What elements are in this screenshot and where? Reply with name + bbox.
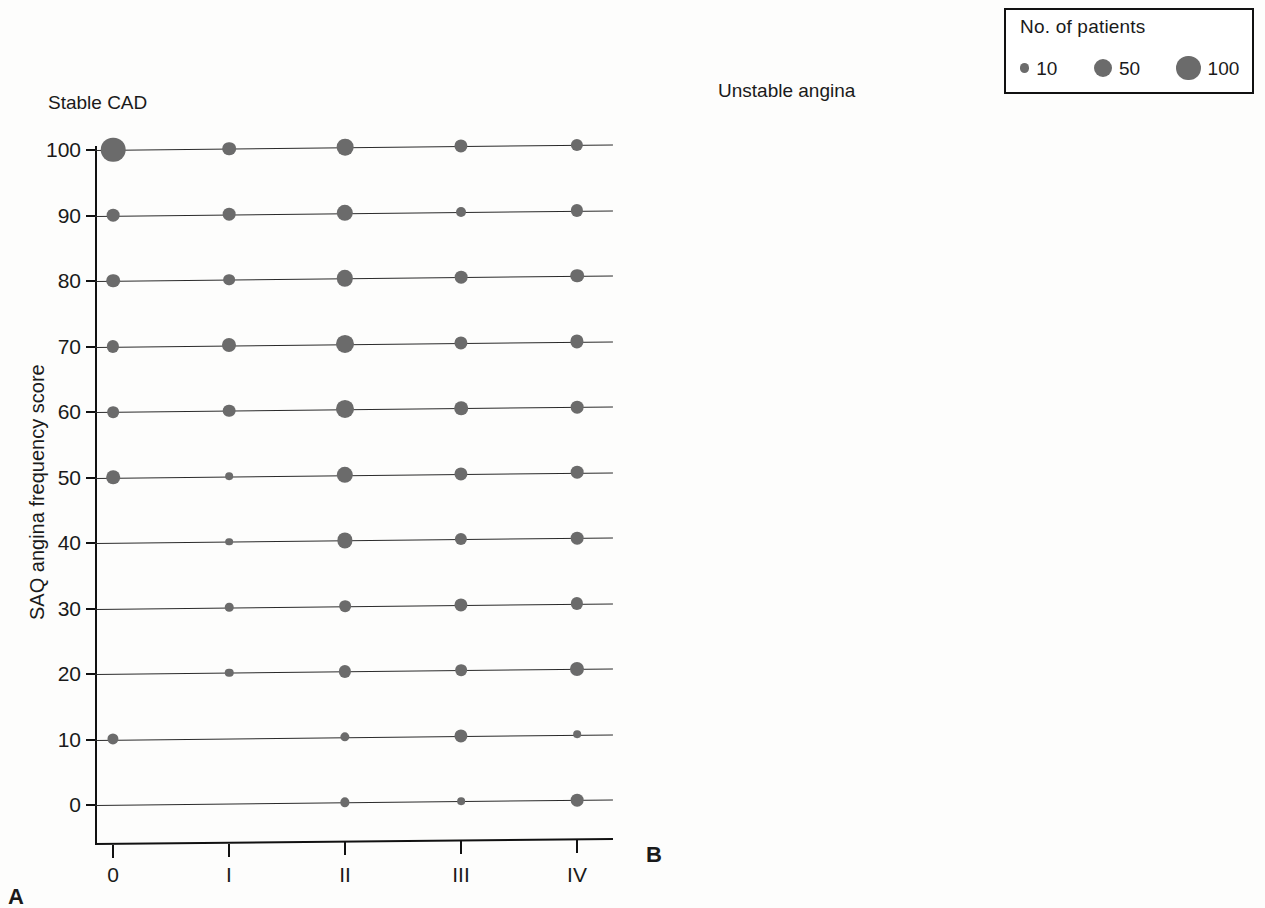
- bubble-a-ccsIV-score0: [571, 794, 584, 807]
- bubble-a-ccsIV-score80: [570, 269, 584, 283]
- bubble-a-ccsI-score100: [222, 142, 236, 156]
- a-row-line-100: [95, 145, 613, 152]
- a-y-tick-label-50: 50: [58, 466, 81, 490]
- bubble-a-ccsII-score0: [340, 798, 349, 807]
- a-x-tick-label-I: I: [226, 863, 232, 887]
- a-x-tick-I: [228, 844, 230, 857]
- a-y-tick-label-90: 90: [58, 204, 81, 228]
- a-row-line-70: [95, 341, 613, 348]
- bubble-a-ccsII-score40: [337, 533, 352, 548]
- bubble-a-ccs0-score70: [107, 340, 119, 352]
- bubble-a-ccsII-score70: [336, 335, 354, 353]
- a-x-tick-II: [344, 842, 346, 855]
- bubble-a-ccsIV-score10: [573, 731, 581, 739]
- a-x-tick-0: [112, 845, 114, 858]
- bubble-a-ccs0-score80: [106, 274, 120, 288]
- a-x-tick-IV: [576, 840, 578, 853]
- bubble-a-ccsIII-score20: [455, 664, 467, 676]
- bubble-a-ccsIV-score60: [571, 401, 584, 414]
- panel-a-title: Stable CAD: [48, 92, 147, 114]
- a-row-line-40: [95, 538, 613, 545]
- bubble-a-ccs0-score10: [107, 734, 118, 745]
- bubble-a-ccsIV-score40: [571, 532, 584, 545]
- a-y-tick-label-10: 10: [58, 728, 81, 752]
- a-row-line-30: [95, 603, 613, 610]
- bubble-a-ccsII-score90: [337, 205, 353, 221]
- bubble-a-ccsII-score100: [337, 139, 354, 156]
- bubble-a-ccsII-score10: [340, 732, 349, 741]
- a-x-tick-III: [460, 841, 462, 854]
- bubble-a-ccsI-score70: [222, 338, 236, 352]
- bubble-a-ccs0-score100: [101, 138, 126, 163]
- a-x-tick-label-III: III: [452, 863, 470, 887]
- bubble-a-ccsIII-score30: [454, 598, 467, 611]
- bubble-a-ccsII-score50: [337, 467, 353, 483]
- bubble-a-ccsIII-score10: [454, 729, 467, 742]
- bubble-a-ccsI-score30: [225, 603, 234, 612]
- panel-stable-cad: Stable CAD SAQ angina frequency score 10…: [0, 0, 640, 908]
- bubble-a-ccs0-score50: [106, 470, 120, 484]
- bubble-a-ccsI-score40: [225, 538, 233, 546]
- a-x-tick-label-IV: IV: [567, 863, 587, 887]
- bubble-a-ccsI-score60: [223, 404, 236, 417]
- panel-a-y-axis-title: SAQ angina frequency score: [26, 364, 49, 620]
- bubble-a-ccsIII-score90: [456, 207, 466, 217]
- bubble-a-ccsIV-score30: [571, 597, 583, 609]
- bubble-a-ccsIV-score20: [570, 662, 584, 676]
- a-y-tick-label-60: 60: [58, 400, 81, 424]
- bubble-a-ccsIV-score50: [571, 466, 584, 479]
- panel-b-letter: B: [646, 842, 662, 868]
- bubble-a-ccsIV-score90: [571, 204, 583, 216]
- bubble-chart-figure: No. of patients 1050100 Stable CAD SAQ a…: [0, 0, 1265, 908]
- a-row-line-50: [95, 472, 613, 479]
- bubble-a-ccsIII-score60: [454, 401, 468, 415]
- a-row-line-80: [95, 276, 613, 283]
- bubble-a-ccsII-score80: [337, 270, 353, 286]
- panel-a-plot-area: 10090807060504030201000IIIIIIIVCCS class: [95, 150, 595, 805]
- a-x-tick-label-II: II: [339, 863, 351, 887]
- a-row-line-10: [95, 734, 613, 741]
- bubble-a-ccs0-score60: [107, 406, 119, 418]
- bubble-a-ccs0-score90: [107, 209, 120, 222]
- bubble-a-ccsIII-score40: [455, 533, 467, 545]
- a-row-line-90: [95, 210, 613, 217]
- bubble-a-ccsI-score50: [225, 472, 233, 480]
- a-y-tick-label-0: 0: [69, 793, 81, 817]
- bubble-a-ccsI-score80: [223, 274, 235, 286]
- bubble-a-ccsII-score20: [339, 665, 351, 677]
- panel-b-title: Unstable angina: [718, 80, 855, 102]
- bubble-a-ccsIII-score50: [454, 467, 467, 480]
- a-y-tick-label-80: 80: [58, 269, 81, 293]
- bubble-a-ccsIII-score0: [457, 797, 465, 805]
- a-row-line-0: [95, 800, 613, 807]
- a-y-tick-label-40: 40: [58, 531, 81, 555]
- a-y-tick-label-20: 20: [58, 662, 81, 686]
- a-y-tick-label-70: 70: [58, 335, 81, 359]
- a-x-tick-label-0: 0: [107, 863, 119, 887]
- bubble-a-ccsII-score60: [336, 400, 354, 418]
- bubble-a-ccsI-score90: [223, 208, 236, 221]
- a-row-line-20: [95, 669, 613, 676]
- a-y-tick-label-30: 30: [58, 597, 81, 621]
- a-row-line-60: [95, 407, 613, 414]
- a-y-tick-label-100: 100: [46, 138, 81, 162]
- bubble-a-ccsI-score20: [225, 668, 234, 677]
- bubble-a-ccsIII-score100: [454, 140, 467, 153]
- bubble-a-ccsII-score30: [339, 600, 351, 612]
- panel-a-letter: A: [8, 884, 24, 908]
- bubble-a-ccsIII-score80: [455, 271, 468, 284]
- panel-a-x-axis-line: [95, 838, 613, 845]
- bubble-a-ccsIV-score100: [571, 139, 583, 151]
- panel-unstable-angina: Unstable angina SAQ angina frequency sco…: [640, 0, 1265, 908]
- bubble-a-ccsIV-score70: [570, 335, 583, 348]
- bubble-a-ccsIII-score70: [454, 336, 467, 349]
